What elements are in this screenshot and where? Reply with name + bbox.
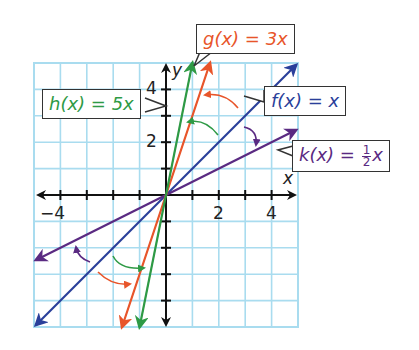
label-k-suffix: x (372, 144, 383, 165)
y-tick-2: 2 (146, 131, 157, 151)
x-tick-4: 4 (266, 203, 277, 223)
label-g: g(x) = 3x (196, 24, 295, 54)
x-axis-label: x (283, 168, 293, 188)
label-k: k(x) = 12x (292, 140, 390, 172)
arrow-f-to-g-upper (205, 95, 238, 108)
x-tick-2: 2 (213, 203, 224, 223)
x-tick-neg4: −4 (40, 203, 65, 223)
fraction-one-half: 12 (362, 145, 372, 168)
y-tick-4: 4 (146, 78, 157, 98)
y-axis-label: y (172, 60, 182, 80)
label-f: f(x) = x (264, 86, 346, 116)
label-h: h(x) = 5x (42, 89, 141, 119)
label-k-prefix: k(x) = (299, 144, 361, 165)
arrow-f-to-k-lower (76, 247, 90, 262)
